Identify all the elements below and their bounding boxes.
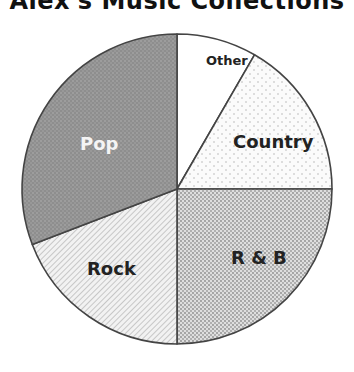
slice-label-rnb: R & B — [231, 247, 287, 268]
slice-label-country: Country — [233, 131, 314, 152]
pie-chart: Other Country R & B Rock Pop — [0, 0, 354, 372]
slice-label-other: Other — [206, 53, 248, 68]
slice-label-rock: Rock — [87, 258, 137, 279]
slice-label-pop: Pop — [80, 133, 119, 154]
